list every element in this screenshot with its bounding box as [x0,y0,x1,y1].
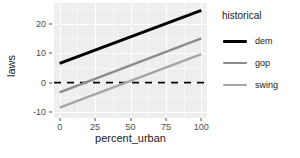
legend-key-line-icon [222,31,248,51]
y-axis-tick-label: 20 [36,19,46,29]
legend-item-swing[interactable]: swing [222,74,298,96]
y-axis-tick-label: 0 [41,78,46,88]
y-axis-tick-mark [49,112,52,113]
x-axis-tick-label: 75 [161,122,171,132]
x-axis-tick-mark [201,118,202,121]
x-axis-label: percent_urban [54,132,207,144]
legend-key-line-icon [222,53,248,73]
y-axis-label: laws [5,36,17,96]
x-axis-tick-mark [59,118,60,121]
legend-key-line-icon [222,75,248,95]
y-axis-tick-mark [49,82,52,83]
legend: historical demgopswing [222,10,298,96]
series-line-gop [60,38,202,92]
plot-panel [54,3,207,118]
y-axis-tick-mark [49,53,52,54]
series-line-swing [60,54,202,108]
legend-item-label: dem [255,36,273,46]
legend-item-label: swing [255,80,278,90]
chart-container: -1001020 laws 0255075100 percent_urban h… [0,0,300,158]
x-axis-tick-mark [95,118,96,121]
series-line-dem [60,10,202,63]
x-axis-tick-label: 0 [57,122,62,132]
x-axis-tick-label: 25 [90,122,100,132]
x-axis-tick-label: 100 [194,122,209,132]
legend-items: demgopswing [222,30,298,96]
y-axis-tick-mark [49,23,52,24]
x-axis-tick-mark [165,118,166,121]
x-axis-tick-mark [130,118,131,121]
legend-item-label: gop [255,58,270,68]
legend-item-gop[interactable]: gop [222,52,298,74]
legend-item-dem[interactable]: dem [222,30,298,52]
x-axis-tick-label: 50 [125,122,135,132]
y-axis-tick-label: -10 [33,107,46,117]
series-lines [54,3,207,118]
y-axis-tick-label: 10 [36,48,46,58]
legend-title: historical [222,10,298,21]
